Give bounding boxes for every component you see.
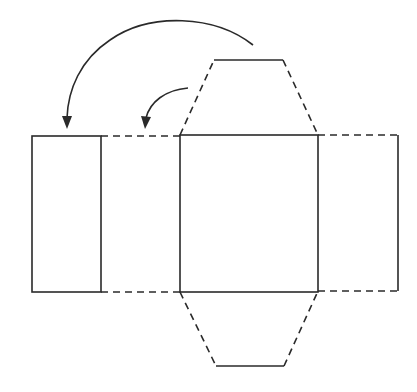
center-square <box>180 135 318 292</box>
small-arrowhead-icon <box>141 116 151 129</box>
bottom-flap-left-fold <box>180 292 216 366</box>
box-net-diagram <box>0 0 417 392</box>
large-fold-arrow <box>67 21 253 118</box>
small-fold-arrow <box>146 88 188 118</box>
top-flap-left-fold <box>180 60 214 135</box>
top-flap-right-fold <box>283 60 318 135</box>
large-arrowhead-icon <box>62 116 72 129</box>
diagram-canvas <box>0 0 417 392</box>
left-end-panel <box>32 136 101 292</box>
bottom-flap-right-fold <box>284 291 318 366</box>
